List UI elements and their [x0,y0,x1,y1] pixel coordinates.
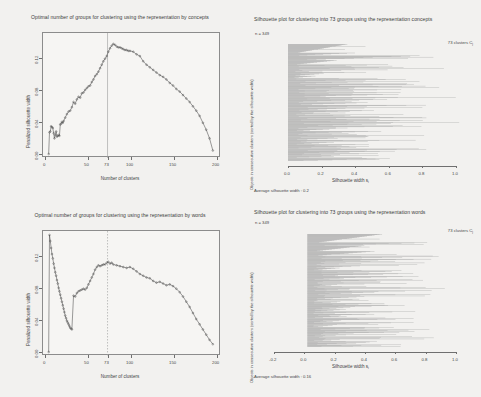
x-tickmark [365,352,366,354]
x-tickmark [274,352,275,354]
bottom-left-series [43,231,221,356]
top-right-footer: Average silhouette width : 0.2 [254,188,309,193]
x-tickmark [45,157,46,160]
x-tickmark [322,166,323,168]
panel-top-right: Silhouette plot for clustering into 73 g… [240,0,481,198]
panel-bottom-left: Optimal number of groups for clustering … [0,198,240,397]
x-axis-line [288,166,456,167]
x-tickmark [88,157,89,160]
bottom-right-y-axis-label: Objects in consecutive clusters (sorted … [249,273,254,384]
x-tick-label: 100 [126,360,133,365]
y-tickmark [39,256,42,257]
top-left-y-axis-label: Penalized silhouette width [26,95,31,148]
top-right-title: Silhouette plot for clustering into 73 g… [254,16,432,22]
bottom-left-title: Optimal number of groups for clustering … [0,212,240,218]
y-tick-label: 0.08 [34,88,39,96]
y-tickmark [39,58,42,59]
x-tickmark [131,157,132,160]
bottom-right-x-axis-label: Silhouette width si [332,364,369,370]
top-left-x-axis-label: Number of clusters [0,176,240,181]
x-label-text: Silhouette width s [332,178,368,183]
x-tick-label: 1.0 [452,171,458,176]
y-tick-label: 0.12 [34,254,39,262]
x-tickmark [422,166,423,168]
x-tickmark [217,355,218,358]
y-tickmark [39,320,42,321]
bottom-right-title: Silhouette plot for clustering into 73 g… [254,209,425,215]
x-tickmark [88,355,89,358]
x-label-subscript: i [368,366,369,370]
bottom-right-n-label: n = 349 [255,220,269,225]
x-tickmark [304,352,305,354]
x-tickmark [426,352,427,354]
x-tickmark [108,355,109,358]
x-tick-label: 0 [43,360,45,365]
x-tick-label: 0.2 [331,357,337,362]
x-tick-label: 200 [212,162,219,167]
x-tick-label: 200 [212,360,219,365]
y-tick-label: 0.04 [34,318,39,326]
x-tick-label: 0.0 [284,171,290,176]
x-tick-label: 73 [104,360,109,365]
x-label-subscript: i [368,180,369,184]
x-tickmark [174,355,175,358]
x-tick-label: 73 [104,162,109,167]
x-tick-label: 0.0 [300,357,306,362]
x-tick-label: 0.4 [361,357,367,362]
x-tickmark [288,166,289,168]
x-tickmark [131,355,132,358]
y-tick-label: 0.00 [34,350,39,358]
x-tickmark [395,352,396,354]
x-tick-label: 1.0 [452,357,458,362]
x-tick-label: 150 [169,360,176,365]
x-tickmark [389,166,390,168]
x-tick-label: 0.6 [391,357,397,362]
x-tick-label: 0.4 [351,171,357,176]
y-tick-label: 0.00 [34,152,39,160]
x-label-text: Silhouette width s [332,364,368,369]
bottom-left-y-axis-label: Penalized silhouette width [26,293,31,346]
y-tickmark [39,122,42,123]
x-tickmark [456,166,457,168]
panel-top-left: Optimal number of groups for clustering … [0,0,240,198]
x-tick-label: 0.8 [418,171,424,176]
x-tick-label: 100 [126,162,133,167]
x-tickmark [335,352,336,354]
bottom-left-x-axis-label: Number of clusters [0,374,240,379]
x-tick-label: 0 [43,162,45,167]
bottom-right-bars [274,234,474,347]
top-right-bars [288,44,473,161]
x-tick-label: 150 [169,162,176,167]
top-right-n-label: n = 349 [255,31,269,36]
top-right-x-axis-label: Silhouette width si [332,178,369,184]
y-tickmark [39,154,42,155]
x-tick-label: 0.2 [318,171,324,176]
top-left-series [43,33,221,158]
top-right-silhouette-bars [288,44,473,161]
x-tickmark [217,157,218,160]
clusters-count-text: 73 clusters [448,228,468,233]
x-tick-label: -0.2 [269,357,276,362]
x-tick-label: 50 [84,162,89,167]
top-left-title: Optimal number of groups for clustering … [0,14,240,20]
bottom-left-plot-frame [42,230,220,355]
y-tick-label: 0.12 [34,56,39,64]
y-tickmark [39,288,42,289]
x-tick-label: 0.8 [422,357,428,362]
x-tickmark [174,157,175,160]
x-tickmark [108,157,109,160]
y-tick-label: 0.04 [34,120,39,128]
x-tick-label: 50 [84,360,89,365]
x-tickmark [355,166,356,168]
bottom-right-footer: Average silhouette width : 0.16 [254,374,311,379]
x-tick-label: 0.6 [385,171,391,176]
y-tick-label: 0.08 [34,286,39,294]
top-right-y-axis-label: Objects in consecutive clusters (sorted … [249,80,254,191]
x-tickmark [45,355,46,358]
y-tickmark [39,352,42,353]
bottom-right-silhouette-bars [274,234,474,347]
figure-canvas: Optimal number of groups for clustering … [0,0,481,397]
top-left-plot-frame [42,32,220,157]
panel-bottom-right: Silhouette plot for clustering into 73 g… [240,198,481,397]
y-tickmark [39,90,42,91]
